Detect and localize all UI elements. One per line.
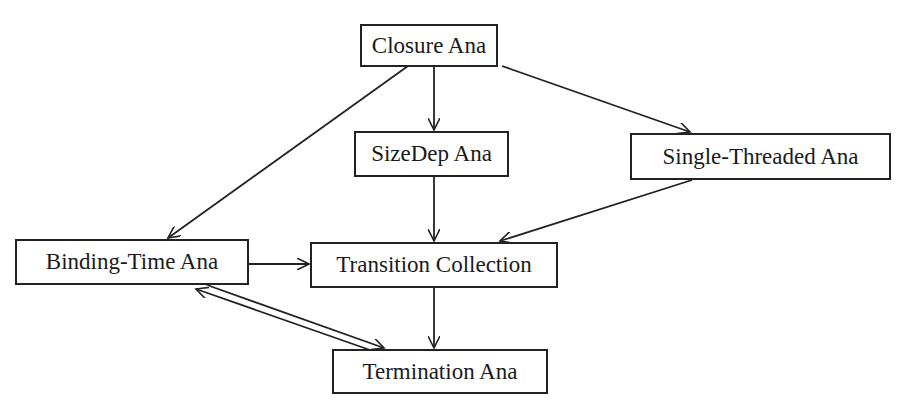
node-binding-time-ana: Binding-Time Ana: [15, 239, 249, 285]
node-closure-ana: Closure Ana: [360, 24, 498, 67]
edge-closure-single: [502, 66, 690, 132]
node-label: SizeDep Ana: [371, 141, 492, 167]
node-label: Single-Threaded Ana: [662, 144, 858, 170]
edge-termination-binding: [196, 289, 370, 350]
edge-binding-termination: [207, 285, 384, 348]
node-label: Closure Ana: [372, 33, 486, 59]
node-transition-collection: Transition Collection: [310, 242, 558, 288]
node-label: Termination Ana: [363, 359, 518, 385]
node-termination-ana: Termination Ana: [332, 349, 548, 394]
node-label: Transition Collection: [336, 252, 531, 278]
node-sizedep-ana: SizeDep Ana: [354, 131, 509, 177]
node-single-threaded-ana: Single-Threaded Ana: [630, 133, 891, 180]
dependency-diagram: Closure Ana SizeDep Ana Single-Threaded …: [0, 0, 906, 404]
edge-single-transition: [500, 180, 692, 241]
node-label: Binding-Time Ana: [46, 249, 218, 275]
